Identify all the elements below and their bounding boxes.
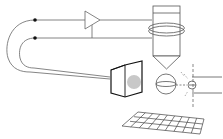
sphere-icon <box>156 74 176 94</box>
sample-grid-icon <box>122 112 204 134</box>
amplifier-icon <box>85 11 100 29</box>
wire-loop-inner <box>20 38 110 77</box>
junction-dot-icon <box>33 18 37 22</box>
detector-icon <box>111 61 142 97</box>
wire-loop-outer <box>7 20 110 79</box>
probe-icon <box>153 6 180 69</box>
schematic-diagram <box>0 0 223 139</box>
light-rays-icon <box>181 72 188 96</box>
junction-dot-icon <box>33 36 37 40</box>
detector-spot <box>127 75 141 89</box>
